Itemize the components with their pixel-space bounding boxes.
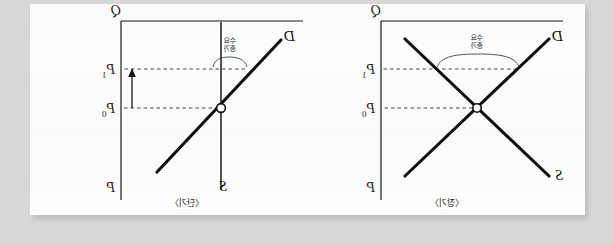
shift-brace xyxy=(437,54,519,67)
price-new-label: P1 xyxy=(362,62,375,80)
demand-curve-label: D xyxy=(284,28,295,45)
figure-short-run: Q P1 P0 P D S 수요 증가 〈단기〉 xyxy=(57,4,317,215)
figure-caption-long-run: 〈장기〉 xyxy=(317,196,577,209)
demand-shift-note-line2: 증가 xyxy=(455,42,499,50)
p-axis-label: P xyxy=(106,180,115,196)
shift-brace xyxy=(213,57,247,67)
plot-svg-short-run xyxy=(57,4,317,215)
plot-short-run xyxy=(57,4,317,215)
mirrored-scan-content: Q P1 P0 P D S 수요 증가 〈장기〉 xyxy=(30,4,585,215)
demand-shift-note: 수요 증가 xyxy=(208,37,252,53)
equilibrium-marker xyxy=(473,104,481,112)
scanned-page: Q P1 P0 P D S 수요 증가 〈장기〉 xyxy=(30,4,585,215)
price-initial-label: P0 xyxy=(102,101,115,119)
demand-curve-label: D xyxy=(552,28,563,45)
q-axis-label: Q xyxy=(111,3,121,19)
q-axis-label: Q xyxy=(371,3,381,19)
demand-shift-note-line1: 수요 xyxy=(208,37,252,45)
demand-shift-note-line2: 증가 xyxy=(208,45,252,53)
demand-shift-note: 수요 증가 xyxy=(455,34,499,50)
price-new-label: P1 xyxy=(102,62,115,80)
plot-svg-long-run xyxy=(317,4,577,215)
demand-shift-note-line1: 수요 xyxy=(455,34,499,42)
figure-caption-short-run: 〈단기〉 xyxy=(57,196,317,209)
figure-long-run: Q P1 P0 P D S 수요 증가 〈장기〉 xyxy=(317,4,577,215)
equilibrium-marker xyxy=(217,104,226,113)
p-axis-label: P xyxy=(366,180,375,196)
price-rise-arrow-head xyxy=(128,68,136,77)
plot-long-run xyxy=(317,4,577,215)
supply-curve-label: S xyxy=(220,178,228,195)
supply-curve-label: S xyxy=(556,167,564,184)
price-initial-label: P0 xyxy=(362,101,375,119)
